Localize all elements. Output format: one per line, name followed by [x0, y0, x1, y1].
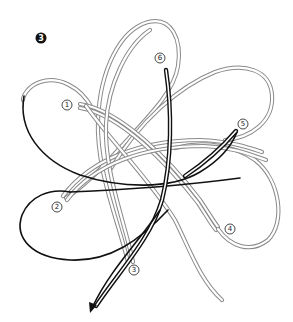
step-labels: 1 2 3 4 5 6: [52, 53, 248, 275]
svg-text:6: 6: [158, 54, 163, 62]
label-4: 4: [225, 224, 235, 234]
label-5: 5: [238, 119, 248, 129]
svg-text:4: 4: [228, 225, 233, 233]
rope-strands: [23, 21, 278, 300]
step-number-badge: 3: [36, 33, 47, 44]
label-6: 6: [155, 53, 165, 63]
svg-text:3: 3: [38, 34, 44, 43]
svg-text:2: 2: [55, 203, 59, 211]
label-2: 2: [52, 202, 62, 212]
knot-diagram: 1 2 3 4 5 6 3: [0, 0, 293, 322]
svg-text:3: 3: [132, 266, 136, 274]
working-end-loop-left-lower: [20, 191, 168, 260]
working-end: [20, 70, 240, 313]
svg-text:1: 1: [65, 101, 69, 109]
working-end-bold-5: [185, 131, 236, 176]
label-3: 3: [129, 265, 139, 275]
label-1: 1: [62, 100, 72, 110]
svg-text:5: 5: [241, 120, 245, 128]
